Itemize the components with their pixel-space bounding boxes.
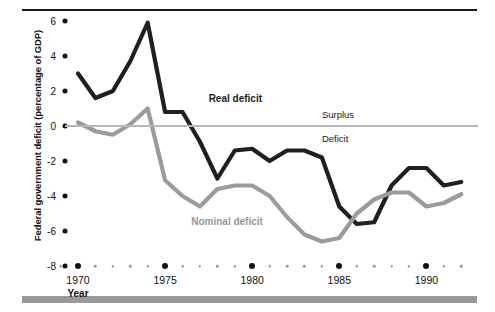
series-label-real-deficit: Real deficit bbox=[209, 93, 262, 104]
x-tick-dot-minor bbox=[355, 265, 358, 268]
series-label-nominal-deficit: Nominal deficit bbox=[191, 216, 263, 227]
x-tick-dot-minor bbox=[129, 265, 132, 268]
x-tick-label: 1970 bbox=[66, 274, 89, 286]
x-tick-dot-minor bbox=[443, 265, 446, 268]
x-tick-label: 1975 bbox=[153, 274, 176, 286]
y-tick-label: 4 bbox=[30, 51, 56, 62]
x-tick-dot-major bbox=[423, 263, 429, 269]
x-tick-dot-minor bbox=[460, 265, 463, 268]
chart-figure: Federal government deficit (percentage o… bbox=[0, 0, 495, 312]
y-tick-dot bbox=[63, 229, 68, 234]
x-tick-dot-major bbox=[75, 263, 81, 269]
x-tick-dot-minor bbox=[373, 265, 376, 268]
x-tick-dot-minor bbox=[112, 265, 115, 268]
y-tick-dot bbox=[63, 89, 68, 94]
y-tick-label: -6 bbox=[30, 226, 56, 237]
y-tick-label: -2 bbox=[30, 156, 56, 167]
x-tick-dot-major bbox=[249, 263, 255, 269]
x-tick-dot-minor bbox=[390, 265, 393, 268]
x-tick-label: 1985 bbox=[328, 274, 351, 286]
x-tick-dot-minor bbox=[321, 265, 324, 268]
y-tick-dot bbox=[63, 159, 68, 164]
x-tick-dot-minor bbox=[303, 265, 306, 268]
x-tick-dot-minor bbox=[181, 265, 184, 268]
x-tick-dot-minor bbox=[408, 265, 411, 268]
y-tick-dot bbox=[63, 264, 68, 269]
y-tick-label: -4 bbox=[30, 191, 56, 202]
x-axis-title: Year bbox=[67, 288, 88, 299]
x-tick-dot-minor bbox=[199, 265, 202, 268]
x-tick-dot-minor bbox=[286, 265, 289, 268]
y-tick-label: 6 bbox=[30, 16, 56, 27]
y-tick-dot bbox=[63, 19, 68, 24]
annotation-deficit: Deficit bbox=[322, 133, 348, 144]
annotation-surplus: Surplus bbox=[322, 109, 354, 120]
x-tick-dot-minor bbox=[146, 265, 149, 268]
x-tick-dot-major bbox=[336, 263, 342, 269]
x-tick-label: 1990 bbox=[415, 274, 438, 286]
y-tick-label: -8 bbox=[30, 261, 56, 272]
x-tick-dot-minor bbox=[59, 265, 62, 268]
y-tick-dot bbox=[63, 194, 68, 199]
y-tick-label: 0 bbox=[30, 121, 56, 132]
x-tick-dot-minor bbox=[94, 265, 97, 268]
y-tick-dot bbox=[63, 54, 68, 59]
x-tick-label: 1980 bbox=[241, 274, 264, 286]
x-tick-dot-minor bbox=[216, 265, 219, 268]
y-tick-label: 2 bbox=[30, 86, 56, 97]
zero-reference-line bbox=[65, 125, 478, 128]
x-tick-dot-minor bbox=[268, 265, 271, 268]
x-tick-dot-minor bbox=[234, 265, 237, 268]
x-tick-dot-major bbox=[162, 263, 168, 269]
plot-area: 6420-2-4-6-819701975198019851990YearSurp… bbox=[0, 0, 495, 312]
